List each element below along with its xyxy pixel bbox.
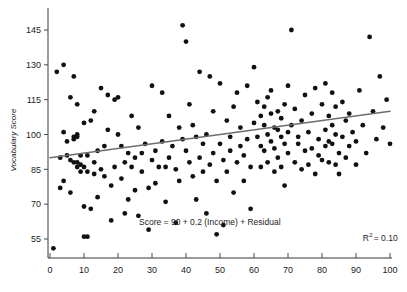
data-point xyxy=(214,232,219,237)
data-point xyxy=(177,125,182,130)
data-point xyxy=(61,130,66,135)
data-point xyxy=(109,218,114,223)
data-point xyxy=(275,109,280,114)
data-point xyxy=(337,172,342,177)
data-point xyxy=(235,90,240,95)
data-point xyxy=(347,111,352,116)
data-point xyxy=(119,176,124,181)
x-axis-ticks-group: 0102030405060708090100 xyxy=(47,253,397,275)
data-point xyxy=(54,69,59,74)
data-point xyxy=(235,160,240,165)
data-point xyxy=(364,151,369,156)
data-point xyxy=(360,123,365,128)
data-point xyxy=(99,86,104,91)
data-point xyxy=(330,141,335,146)
data-point xyxy=(116,132,121,137)
data-point xyxy=(68,190,73,195)
x-axis-tick-label: 0 xyxy=(47,265,52,275)
data-point xyxy=(282,141,287,146)
data-point xyxy=(265,132,270,137)
data-point xyxy=(187,102,192,107)
y-axis-tick-label: 115 xyxy=(27,95,41,105)
data-point xyxy=(320,158,325,163)
data-point xyxy=(367,35,372,40)
data-point xyxy=(187,160,192,165)
data-point xyxy=(146,186,151,191)
x-axis-tick-label: 50 xyxy=(215,265,225,275)
data-point xyxy=(262,104,267,109)
data-point xyxy=(255,100,260,105)
data-point xyxy=(122,211,127,216)
data-point xyxy=(292,107,297,112)
data-point xyxy=(241,179,246,184)
data-point xyxy=(146,227,151,232)
data-point xyxy=(228,148,233,153)
data-point xyxy=(231,104,236,109)
data-point xyxy=(126,151,131,156)
data-point xyxy=(238,144,243,149)
data-point xyxy=(156,165,161,170)
equation-annotation: Score = 90 + 0.2 (Income) + Residual xyxy=(139,217,281,227)
data-point xyxy=(163,165,168,170)
data-point xyxy=(269,139,274,144)
x-axis-tick-label: 100 xyxy=(382,265,397,275)
y-axis-tick-label: 145 xyxy=(26,25,41,35)
data-point xyxy=(71,74,76,79)
y-axis-tick-label: 85 xyxy=(31,165,41,175)
data-point xyxy=(82,204,87,209)
data-point xyxy=(374,137,379,142)
data-point xyxy=(326,160,331,165)
data-point xyxy=(289,28,294,33)
x-axis-tick-label: 60 xyxy=(249,265,259,275)
data-point xyxy=(133,155,138,160)
data-point xyxy=(201,169,206,174)
data-point xyxy=(184,39,189,44)
annotations-group: Score = 90 + 0.2 (Income) + Residual R 2… xyxy=(139,217,398,243)
r-squared-value: = 0.10 xyxy=(374,233,398,243)
data-point xyxy=(323,81,328,86)
data-point xyxy=(92,109,97,114)
data-point xyxy=(102,144,107,149)
x-axis-tick-label: 80 xyxy=(317,265,327,275)
data-point xyxy=(112,165,117,170)
data-point xyxy=(320,102,325,107)
data-point xyxy=(194,197,199,202)
data-point xyxy=(105,127,110,132)
data-point xyxy=(224,169,229,174)
data-point xyxy=(136,125,141,130)
data-point xyxy=(204,211,209,216)
data-point xyxy=(340,134,345,139)
data-point xyxy=(326,114,331,119)
data-point xyxy=(384,97,389,102)
data-point xyxy=(68,95,73,100)
data-point xyxy=(150,83,155,88)
data-point xyxy=(109,183,114,188)
data-point xyxy=(306,162,311,167)
data-point xyxy=(228,134,233,139)
data-point xyxy=(163,199,168,204)
y-axis-ticks-group: 557085100115130145 xyxy=(26,25,48,244)
data-point xyxy=(238,125,243,130)
data-point xyxy=(258,114,263,119)
data-point xyxy=(133,188,138,193)
data-point xyxy=(292,160,297,165)
data-point xyxy=(173,167,178,172)
data-point xyxy=(255,134,260,139)
data-point xyxy=(357,88,362,93)
data-point xyxy=(82,120,87,125)
data-point xyxy=(262,148,267,153)
data-point xyxy=(252,65,257,70)
data-point xyxy=(296,141,301,146)
data-point xyxy=(65,139,70,144)
data-point xyxy=(75,134,80,139)
data-point xyxy=(177,179,182,184)
data-point xyxy=(139,151,144,156)
data-point xyxy=(330,123,335,128)
data-point xyxy=(92,172,97,177)
y-axis-tick-label: 100 xyxy=(26,130,41,140)
data-point xyxy=(272,169,277,174)
data-point xyxy=(207,162,212,167)
data-point xyxy=(275,127,280,132)
data-point xyxy=(262,123,267,128)
data-point xyxy=(252,120,257,125)
